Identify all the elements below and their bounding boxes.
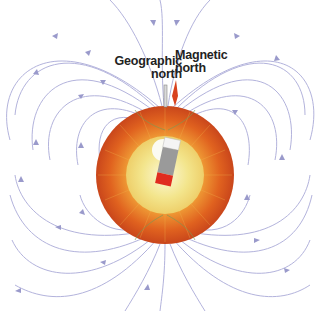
geographic-north-axis: [164, 85, 167, 107]
diagram-canvas: [0, 0, 317, 311]
earth-cross-section: [96, 106, 234, 244]
geographic-north-label: Geographic north: [104, 55, 182, 81]
pole-markers: [164, 80, 178, 107]
earth-magnetic-field-diagram: Geographic north Magnetic north: [0, 0, 317, 311]
magnetic-north-needle: [172, 80, 178, 106]
magnetic-north-label: Magnetic north: [175, 49, 255, 75]
